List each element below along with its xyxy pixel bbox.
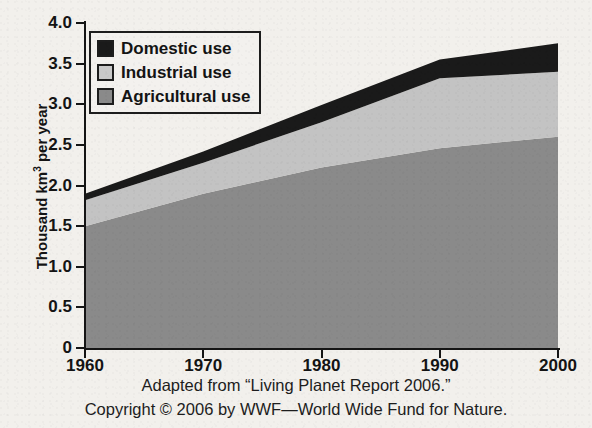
x-tick-label: 2000: [518, 357, 592, 374]
y-axis-title: Thousand km3 per year: [33, 72, 50, 302]
y-tick-mark: [76, 347, 85, 349]
chart-title: Global Water Use, 1960–2000: [0, 0, 592, 5]
y-tick-label: 4.0: [32, 14, 72, 31]
y-tick-mark: [76, 22, 85, 24]
caption-block: Adapted from “Living Planet Report 2006.…: [0, 374, 592, 421]
y-tick-mark: [76, 63, 85, 65]
legend-item-agricultural: Agricultural use: [97, 84, 250, 108]
legend-label-agricultural: Agricultural use: [121, 88, 250, 105]
y-tick-mark: [76, 266, 85, 268]
caption-source: Adapted from “Living Planet Report 2006.…: [0, 374, 592, 397]
legend-label-domestic: Domestic use: [121, 40, 232, 57]
industrial-use-swatch: [97, 64, 114, 81]
y-tick-mark: [76, 306, 85, 308]
y-tick-mark: [76, 144, 85, 146]
y-tick-mark: [76, 225, 85, 227]
legend-item-domestic: Domestic use: [97, 36, 250, 60]
y-tick-mark: [76, 185, 85, 187]
domestic-use-swatch: [97, 40, 114, 57]
y-axis-title-main: Thousand km: [33, 172, 50, 270]
y-axis-title-exponent: 3: [32, 166, 43, 172]
legend-label-industrial: Industrial use: [121, 64, 232, 81]
figure-container: Global Water Use, 1960–2000 00.51.01.52.…: [0, 0, 592, 428]
caption-copyright: Copyright © 2006 by WWF—World Wide Fund …: [0, 397, 592, 421]
y-tick-label: 0: [32, 339, 72, 356]
y-tick-mark: [76, 103, 85, 105]
legend-item-industrial: Industrial use: [97, 60, 250, 84]
x-tick-label: 1990: [400, 357, 480, 374]
y-tick-label: 3.5: [32, 55, 72, 72]
x-tick-label: 1980: [282, 357, 362, 374]
x-tick-label: 1970: [163, 357, 243, 374]
chart-legend: Domestic use Industrial use Agricultural…: [89, 31, 261, 114]
agricultural-use-swatch: [97, 88, 114, 105]
x-tick-label: 1960: [45, 357, 125, 374]
y-axis-title-tail: per year: [33, 104, 50, 167]
